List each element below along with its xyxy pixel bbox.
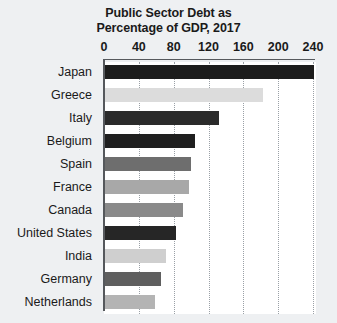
bar-india [105, 249, 166, 263]
x-tick-label-240: 240 [303, 40, 324, 54]
x-axis-tick-labels: 04080120160200240 [0, 40, 337, 58]
bar-italy [105, 111, 219, 125]
bar-greece [105, 88, 263, 102]
x-tick-label-0: 0 [101, 40, 108, 54]
x-axis-rule [103, 59, 315, 60]
bar-label-netherlands: Netherlands [0, 295, 92, 309]
bar-row: France [0, 177, 337, 200]
x-tick-label-120: 120 [198, 40, 219, 54]
bar-label-greece: Greece [0, 88, 92, 102]
bar-belgium [105, 134, 195, 148]
bar-label-india: India [0, 249, 92, 263]
bar-row: Netherlands [0, 292, 337, 315]
bar-label-japan: Japan [0, 65, 92, 79]
bar-row: Belgium [0, 131, 337, 154]
x-tick-label-40: 40 [132, 40, 146, 54]
bar-netherlands [105, 295, 155, 309]
bar-spain [105, 157, 191, 171]
bar-row: Germany [0, 269, 337, 292]
chart-title-line-1: Public Sector Debt as [0, 6, 337, 21]
bar-japan [105, 65, 314, 79]
bar-germany [105, 272, 161, 286]
bar-france [105, 180, 189, 194]
bar-row: Canada [0, 200, 337, 223]
bar-label-belgium: Belgium [0, 134, 92, 148]
chart-title: Public Sector Debt as Percentage of GDP,… [0, 6, 337, 36]
bar-row: United States [0, 223, 337, 246]
bar-row: Japan [0, 62, 337, 85]
x-tick-label-80: 80 [167, 40, 181, 54]
bar-canada [105, 203, 183, 217]
bar-row: Greece [0, 85, 337, 108]
bar-label-italy: Italy [0, 111, 92, 125]
bar-row: Spain [0, 154, 337, 177]
bar-label-spain: Spain [0, 157, 92, 171]
bar-label-germany: Germany [0, 272, 92, 286]
bar-label-france: France [0, 180, 92, 194]
bar-chart: Public Sector Debt as Percentage of GDP,… [0, 0, 337, 323]
bar-row: Italy [0, 108, 337, 131]
bar-label-canada: Canada [0, 203, 92, 217]
bar-row: India [0, 246, 337, 269]
bar-united-states [105, 226, 176, 240]
bar-label-united-states: United States [0, 226, 92, 240]
chart-title-line-2: Percentage of GDP, 2017 [0, 21, 337, 36]
x-tick-label-200: 200 [268, 40, 289, 54]
x-tick-label-160: 160 [233, 40, 254, 54]
